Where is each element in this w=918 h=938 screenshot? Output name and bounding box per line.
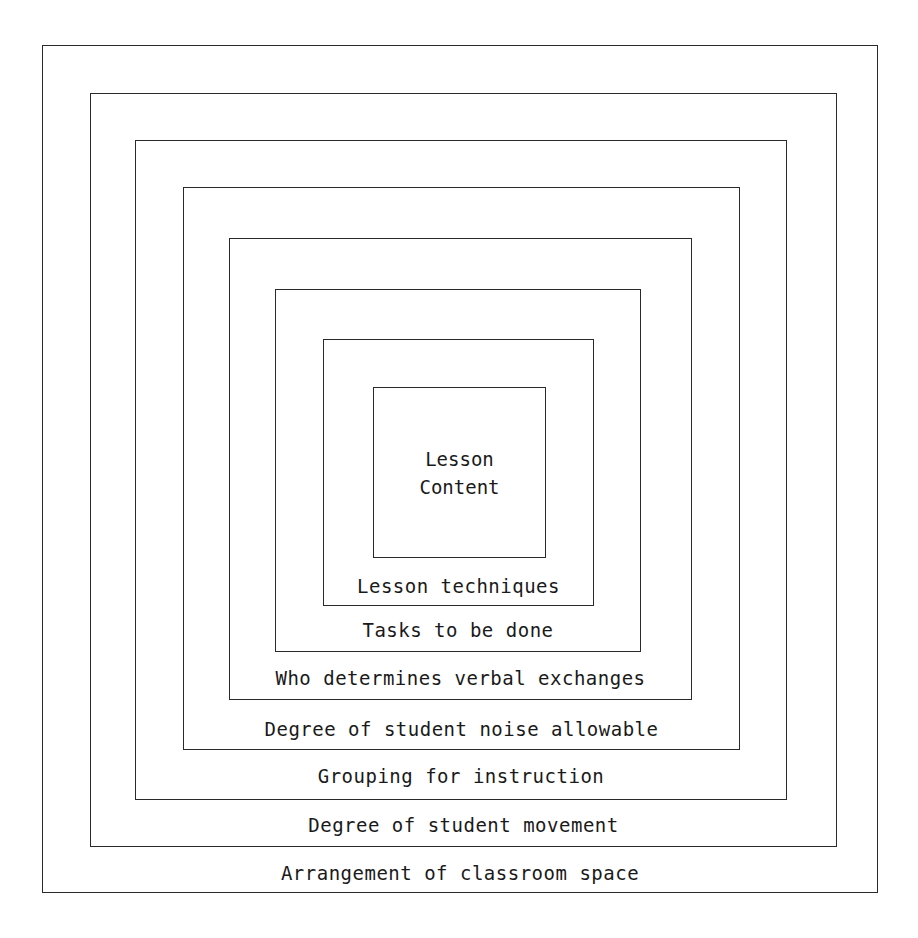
label-grouping-for-instruction: Grouping for instruction (136, 765, 786, 787)
label-lesson-techniques: Lesson techniques (324, 575, 593, 597)
label-tasks-to-be-done: Tasks to be done (276, 619, 640, 641)
label-lesson-content: Lesson Content (374, 445, 545, 501)
label-who-determines-verbal-exchanges: Who determines verbal exchanges (230, 667, 691, 689)
label-degree-of-student-movement: Degree of student movement (91, 814, 836, 836)
core-lesson-content: Lesson Content (373, 387, 546, 558)
label-arrangement-of-classroom-space: Arrangement of classroom space (43, 862, 877, 884)
label-lesson-content-line2: Content (374, 473, 545, 501)
label-degree-of-student-noise: Degree of student noise allowable (184, 718, 739, 740)
label-lesson-content-line1: Lesson (374, 445, 545, 473)
